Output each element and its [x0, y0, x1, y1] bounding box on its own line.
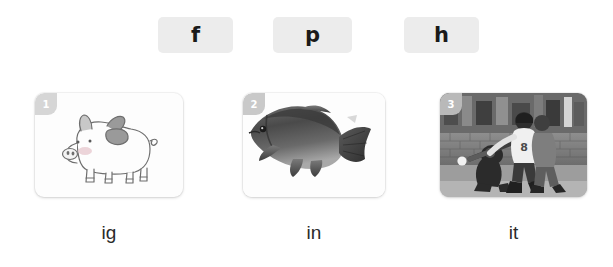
letter-tile-h-label: h — [434, 25, 449, 46]
letter-tile-h[interactable]: h — [404, 17, 479, 53]
letter-tile-f-label: f — [191, 25, 200, 46]
pig-illustration-icon — [35, 93, 183, 197]
letter-tile-f[interactable]: f — [158, 17, 233, 53]
picture-card-pig[interactable]: 1 — [35, 93, 183, 197]
picture-card-batter[interactable]: 3 — [440, 93, 587, 197]
softball-batter-hit-photo-icon: 8 — [440, 93, 587, 197]
letter-tile-row: f p h — [0, 17, 613, 53]
svg-text:8: 8 — [520, 141, 528, 154]
card-badge-2: 2 — [243, 93, 265, 115]
card-badge-1: 1 — [35, 93, 57, 115]
card-label-row: ig in it — [0, 220, 613, 250]
card-label-in: in — [243, 220, 385, 246]
picture-card-row: 1 — [0, 93, 613, 198]
card-label-it: it — [440, 220, 587, 246]
letter-tile-p[interactable]: p — [273, 17, 352, 53]
card-badge-3: 3 — [440, 93, 462, 115]
letter-tile-p-label: p — [305, 25, 320, 46]
card-label-ig: ig — [35, 220, 183, 246]
picture-card-fish[interactable]: 2 — [243, 93, 385, 197]
